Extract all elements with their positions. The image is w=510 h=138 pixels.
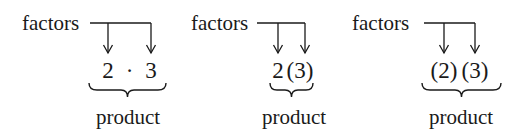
first-factor: 2 [102, 58, 114, 83]
factors-label: factors [191, 11, 248, 35]
arrow-to-first-factor [274, 23, 283, 53]
arrow-to-first-factor [104, 23, 113, 53]
second-factor: 3 [145, 58, 157, 83]
product-label: product [429, 105, 493, 129]
arrow-to-first-factor [440, 23, 449, 53]
factors-label: factors [22, 11, 79, 35]
underbrace-icon [422, 83, 501, 97]
second-factor: (3) [287, 58, 314, 83]
multiplication-dot: · [126, 58, 134, 83]
first-factor: (2) [431, 58, 458, 83]
panel-juxtaposition-notation: factors 2 (3) product [191, 11, 326, 129]
underbrace-icon [89, 83, 166, 97]
panel-dot-notation: factors 2 · 3 product [22, 11, 166, 129]
arrow-to-second-factor [301, 23, 310, 53]
second-factor: (3) [462, 58, 489, 83]
arrow-to-second-factor [147, 23, 156, 53]
factors-label: factors [352, 11, 409, 35]
panel-double-paren-notation: factors (2) (3) product [352, 11, 501, 129]
factors-product-diagram: factors 2 · 3 product factors [0, 0, 510, 138]
first-factor: 2 [272, 58, 284, 83]
arrow-to-second-factor [471, 23, 480, 53]
product-label: product [262, 105, 326, 129]
underbrace-icon [270, 83, 313, 97]
product-label: product [96, 105, 160, 129]
